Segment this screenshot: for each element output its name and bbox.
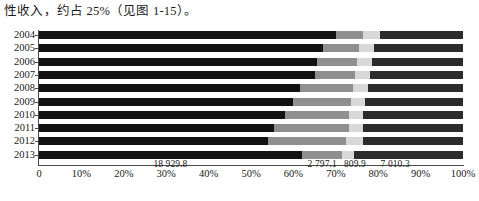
bar-segment [302, 151, 342, 159]
bar-row: 2011 [39, 124, 463, 132]
y-axis-label: 2004 [14, 30, 35, 41]
bar-row: 2010 [39, 111, 463, 119]
bar-segment [274, 124, 348, 132]
bar-segment [349, 124, 364, 132]
x-axis-tick-label: 90% [411, 168, 430, 179]
bar-segment [374, 44, 463, 52]
value-label: 7 010.3 [381, 159, 410, 169]
y-axis-label: 2009 [14, 96, 35, 107]
x-axis-tick-label: 30% [157, 168, 176, 179]
x-axis-tick-label: 10% [72, 168, 91, 179]
y-axis-label: 2013 [14, 149, 35, 160]
bar-segment [368, 84, 463, 92]
bar-segment [39, 58, 317, 66]
y-axis-label: 2011 [14, 123, 35, 134]
bar-segment [372, 58, 463, 66]
bar-segment [363, 137, 463, 145]
y-axis-label: 2006 [14, 56, 35, 67]
bar-row: 2012 [39, 137, 463, 145]
bar-segment [39, 71, 315, 79]
bar-segment [39, 151, 302, 159]
bar-segment [268, 137, 346, 145]
bar-segment [285, 111, 349, 119]
bar-segment [39, 44, 323, 52]
bar-segment [354, 151, 463, 159]
x-axis-tick-label: 0 [36, 168, 41, 179]
y-axis-label: 2007 [14, 70, 35, 81]
plot-area: 2004200520062007200820092010201120122013 [39, 30, 463, 165]
bar-row: 2004 [39, 31, 463, 39]
y-axis-label: 2008 [14, 83, 35, 94]
bar-row: 2013 [39, 151, 463, 159]
value-label: 18 929.8 [153, 159, 187, 169]
bar-segment [39, 137, 268, 145]
bar-segment [363, 111, 463, 119]
x-axis-tick-label: 80% [369, 168, 388, 179]
x-axis-tick-label: 100% [451, 168, 476, 179]
bar-row: 2009 [39, 98, 463, 106]
bar-segment [363, 124, 463, 132]
bar-segment [349, 111, 364, 119]
value-label: 2 797.1 [308, 159, 337, 169]
bar-segment [359, 44, 374, 52]
bar-row: 2007 [39, 71, 463, 79]
bar-segment [355, 71, 370, 79]
bar-segment [293, 98, 350, 106]
page-root: 性收入，约占 25%（见图 1-15）。 2004200520062007200… [0, 0, 479, 201]
bar-segment [370, 71, 463, 79]
bar-segment [315, 71, 355, 79]
bar-segment [39, 124, 274, 132]
y-axis-label: 2010 [14, 110, 35, 121]
x-axis-tick-label: 70% [326, 168, 345, 179]
bar-segment [336, 31, 364, 39]
value-label: 809.9 [344, 159, 366, 169]
x-axis-tick-label: 20% [114, 168, 133, 179]
bar-row: 2008 [39, 84, 463, 92]
bar-segment [357, 58, 372, 66]
bar-segment [300, 84, 353, 92]
bar-segment [363, 31, 380, 39]
bar-segment [323, 44, 359, 52]
bar-segment [380, 31, 463, 39]
bar-segment [39, 98, 293, 106]
x-axis-tick-label: 50% [241, 168, 260, 179]
caption-text: 性收入，约占 25%（见图 1-15）。 [4, 2, 197, 20]
y-axis-label: 2012 [14, 136, 35, 147]
bar-segment [39, 111, 285, 119]
bar-segment [365, 98, 463, 106]
bar-segment [39, 31, 336, 39]
bar-segment [351, 98, 366, 106]
y-axis-label: 2005 [14, 43, 35, 54]
bar-row: 2005 [39, 44, 463, 52]
x-axis-tick-label: 60% [284, 168, 303, 179]
bar-segment [353, 84, 368, 92]
bar-row: 2006 [39, 58, 463, 66]
x-axis-tick-label: 40% [199, 168, 218, 179]
bar-segment [317, 58, 357, 66]
stacked-bar-chart: 2004200520062007200820092010201120122013… [0, 27, 479, 193]
bar-segment [342, 151, 353, 159]
bar-segment [39, 84, 300, 92]
bar-segment [346, 137, 363, 145]
